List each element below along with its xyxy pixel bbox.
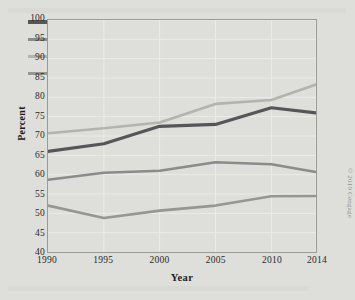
y-tick-label: 100 xyxy=(19,14,45,24)
y-tick-label: 45 xyxy=(19,229,45,239)
y-tick-label: 50 xyxy=(19,209,45,219)
series-line-hispanic xyxy=(48,196,316,218)
page-bleed xyxy=(8,286,308,291)
x-tick-label: 2014 xyxy=(307,256,327,266)
x-axis-title: Year xyxy=(47,272,317,283)
plot-area xyxy=(47,19,317,253)
y-tick-label: 85 xyxy=(19,73,45,83)
chart-figure: White, non-Hispanic Black Asian Hispanic… xyxy=(0,0,355,300)
y-tick-label: 95 xyxy=(19,34,45,44)
plot-canvas xyxy=(48,20,316,252)
series-line-black xyxy=(48,162,316,179)
y-tick-label: 60 xyxy=(19,170,45,180)
x-tick-label: 1995 xyxy=(93,256,113,266)
x-tick-label: 2010 xyxy=(262,256,282,266)
x-tick-label: 1990 xyxy=(37,256,57,266)
x-tick-label: 2000 xyxy=(150,256,170,266)
y-axis-title: Percent xyxy=(16,89,27,159)
y-tick-label: 90 xyxy=(19,53,45,63)
x-tick-label: 2005 xyxy=(206,256,226,266)
y-tick-label: 55 xyxy=(19,190,45,200)
page-bleed xyxy=(8,8,346,13)
copyright-notice: © 2019 Cengage xyxy=(346,168,354,218)
x-axis-ticks: 199019952000200520102014 xyxy=(47,256,317,270)
